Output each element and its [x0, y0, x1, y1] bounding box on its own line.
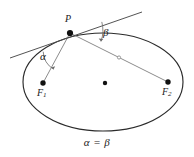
- figure-caption: α = β: [0, 136, 194, 148]
- label-point-p: P: [65, 14, 71, 24]
- label-focus-1: F1: [37, 88, 47, 99]
- midpoint-marker-dot: [117, 56, 120, 59]
- label-angle-beta: β: [103, 27, 108, 38]
- ellipse-outline: [23, 33, 183, 131]
- focus-2-dot: [165, 79, 170, 84]
- segment-p-f1: [43, 33, 70, 83]
- ellipse-center-dot: [103, 81, 107, 85]
- label-focus-1-subscript: 1: [43, 91, 47, 99]
- tangent-line: [10, 12, 142, 58]
- label-focus-2-subscript: 2: [168, 90, 172, 98]
- ellipse-reflection-figure: P α β F1 F2 α = β: [0, 0, 194, 157]
- point-p-dot: [67, 30, 73, 36]
- label-angle-alpha: α: [40, 51, 46, 62]
- focus-1-dot: [40, 80, 45, 85]
- label-focus-2: F2: [162, 87, 172, 98]
- angle-arc-beta-arrowhead: [99, 39, 104, 42]
- figure-canvas: [0, 0, 194, 157]
